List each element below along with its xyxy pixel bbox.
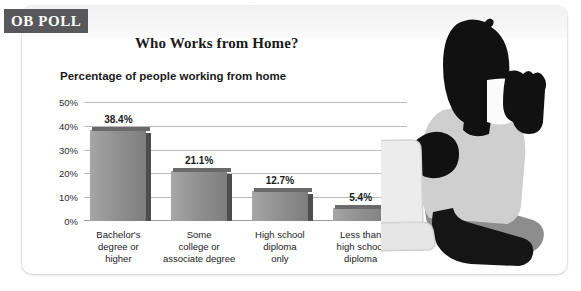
bar-value-label: 5.4% (349, 192, 372, 203)
y-axis-tick-label: 0% (64, 216, 78, 227)
chart-bar: 38.4%Bachelor'sdegree orhigher (90, 130, 146, 221)
category-label-line: college or (158, 241, 240, 253)
category-label-line: higher (77, 253, 159, 265)
category-label-line: Bachelor's (77, 229, 159, 241)
chart-bar-face (90, 130, 146, 221)
category-label-line: diploma (320, 253, 402, 265)
chart-bar-side (389, 211, 394, 221)
chart-subtitle: Percentage of people working from home (60, 70, 286, 82)
chart-bar: 5.4%Less thanhigh schooldiploma (333, 208, 389, 221)
x-axis-category-label: Somecollege orassociate degree (158, 229, 240, 265)
chart-bar-face (171, 171, 227, 221)
chart-bar-top (335, 205, 393, 209)
poll-card: Who Works from Home? Percentage of peopl… (22, 6, 567, 274)
y-axis-tick-label: 30% (59, 144, 78, 155)
card-header-band (22, 6, 567, 38)
x-axis-category-label: Less thanhigh schooldiploma (320, 229, 402, 265)
page-title: Who Works from Home? (135, 35, 299, 52)
y-axis-tick-label: 20% (59, 168, 78, 179)
poll-infographic-screen: Who Works from Home? Percentage of peopl… (0, 0, 581, 291)
x-axis-category-label: High schooldiplomaonly (239, 229, 321, 265)
y-axis-tick-label: 40% (59, 120, 78, 131)
chart-bar-side (227, 174, 232, 221)
category-label-line: high school (320, 241, 402, 253)
category-label-line: diploma (239, 241, 321, 253)
category-label-line: Less than (320, 229, 402, 241)
person-with-laptop-silhouette-icon (381, 14, 561, 272)
chart-bar: 21.1%Somecollege orassociate degree (171, 171, 227, 221)
chart-bar: 12.7%High schooldiplomaonly (252, 191, 308, 221)
chart-bar-top (173, 168, 231, 172)
category-label-line: only (239, 253, 321, 265)
gridline (84, 102, 407, 103)
category-label-line: Some (158, 229, 240, 241)
y-axis-tick-label: 50% (59, 97, 78, 108)
y-axis-tick-label: 10% (59, 192, 78, 203)
poll-badge: OB POLL (4, 9, 88, 33)
chart-plot-area: 50%40%30%20%10%0%38.4%Bachelor'sdegree o… (84, 102, 407, 221)
chart-bar-side (308, 194, 313, 221)
bar-value-label: 12.7% (266, 175, 294, 186)
category-label-line: associate degree (158, 253, 240, 265)
x-axis-category-label: Bachelor'sdegree orhigher (77, 229, 159, 265)
chart-bar-face (252, 191, 308, 221)
chart-bar-face (333, 208, 389, 221)
chart-bar-top (92, 127, 150, 131)
chart-bar-top (254, 188, 312, 192)
bar-value-label: 21.1% (185, 155, 213, 166)
bar-value-label: 38.4% (104, 114, 132, 125)
chart-bar-side (146, 133, 151, 221)
category-label-line: High school (239, 229, 321, 241)
category-label-line: degree or (77, 241, 159, 253)
